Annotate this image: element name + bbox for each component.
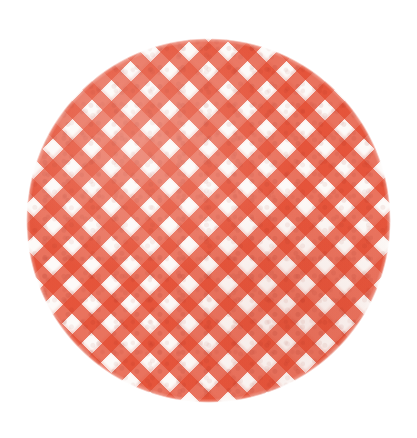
fabric-grain-texture [26, 38, 391, 403]
gingham-circle-swatch [26, 38, 391, 403]
image-canvas [0, 0, 417, 438]
